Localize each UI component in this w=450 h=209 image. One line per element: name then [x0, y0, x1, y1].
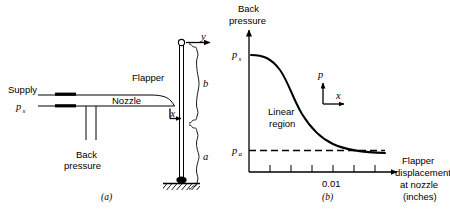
perturbation-p-label: p: [317, 69, 323, 80]
y-displacement-label: y: [200, 31, 206, 42]
flapper-nozzle-figure: Supply p s Nozzle Flapper Back pressure …: [0, 0, 450, 209]
dimension-brace-a: [189, 125, 199, 189]
x-axis-ticks: [270, 165, 375, 172]
x-axis-title-line4: (inches): [403, 191, 437, 202]
linear-region-label-line2: region: [269, 118, 295, 129]
figure-root: Supply p s Nozzle Flapper Back pressure …: [0, 0, 450, 209]
panel-b-caption: (b): [322, 192, 333, 203]
linear-region-label-line1: Linear: [268, 106, 294, 117]
y-tick-pa-subscript: a: [239, 150, 243, 158]
dimension-label-a: a: [203, 151, 208, 162]
x-axis-title-line3: at nozzle: [400, 179, 438, 190]
x-displacement-label: x: [170, 108, 176, 119]
panel-a: Supply p s Nozzle Flapper Back pressure …: [8, 31, 210, 203]
orifice-restriction-icon: [55, 93, 76, 108]
x-axis-title-line2: displacement: [395, 167, 450, 178]
supply-label: Supply: [8, 84, 37, 95]
x-tick-label-001: 0.01: [322, 178, 341, 189]
dimension-label-b: b: [203, 78, 208, 89]
flapper-bar: [180, 45, 184, 181]
back-pressure-tap: [86, 106, 96, 140]
y-tick-label-ps: p s: [231, 49, 242, 63]
pivot-joint-icon: [178, 39, 184, 45]
y-tick-pa-symbol: p: [231, 145, 237, 156]
flapper-label: Flapper: [132, 72, 164, 83]
dimension-brace-b: [189, 44, 199, 123]
panel-a-caption: (a): [101, 192, 112, 203]
back-pressure-label-line2: pressure: [64, 160, 101, 171]
supply-pressure-subscript: s: [23, 107, 26, 115]
fixed-support-hatching-icon: [163, 177, 200, 190]
y-tick-label-pa: p a: [231, 145, 243, 159]
perturbation-x-label: x: [335, 90, 341, 101]
supply-pressure-symbol: p s: [15, 101, 26, 115]
y-axis-title-line2: pressure: [229, 15, 266, 26]
y-tick-ps-symbol: p: [231, 49, 237, 60]
perturbation-axes: [323, 83, 344, 104]
y-axis-title-line1: Back: [238, 3, 259, 14]
nozzle-label: Nozzle: [112, 95, 141, 106]
back-pressure-label-line1: Back: [76, 149, 97, 160]
supply-pressure-p: p: [15, 101, 21, 112]
y-tick-ps-subscript: s: [239, 55, 242, 63]
x-axis-title-line1: Flapper: [402, 155, 434, 166]
panel-b: Back pressure p s p a 0.01 Linear region…: [229, 3, 450, 203]
